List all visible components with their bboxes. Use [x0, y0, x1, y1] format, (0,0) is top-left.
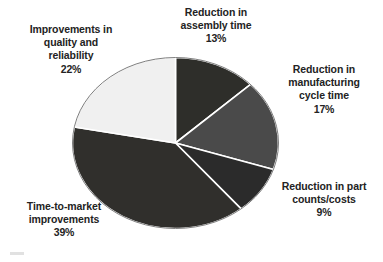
- slice-label-time-to-market-line2: improvements: [2, 213, 126, 226]
- slice-value-assembly-time: 13%: [158, 32, 274, 45]
- slice-label-manufacturing-cycle-time: Reduction in manufacturing cycle time 17…: [268, 63, 380, 116]
- slice-value-time-to-market: 39%: [2, 226, 126, 239]
- slice-label-assembly-time: Reduction in assembly time 13%: [158, 6, 274, 46]
- slice-label-quality-reliability-line3: reliability: [6, 49, 136, 62]
- slice-label-part-counts-costs-line1: Reduction in part: [267, 180, 381, 193]
- slice-label-manufacturing-cycle-time-line3: cycle time: [268, 89, 380, 102]
- slice-value-part-counts-costs: 9%: [267, 206, 381, 219]
- slice-label-quality-reliability: Improvements in quality and reliability …: [6, 23, 136, 76]
- slice-label-assembly-time-line1: Reduction in: [158, 6, 274, 19]
- slice-value-quality-reliability: 22%: [6, 63, 136, 76]
- slice-label-manufacturing-cycle-time-line2: manufacturing: [268, 76, 380, 89]
- slice-label-quality-reliability-line1: Improvements in: [6, 23, 136, 36]
- slice-label-time-to-market: Time-to-market improvements 39%: [2, 200, 126, 240]
- slice-label-part-counts-costs-line2: counts/costs: [267, 193, 381, 206]
- slice-label-time-to-market-line1: Time-to-market: [2, 200, 126, 213]
- scan-artifact-speck: [10, 252, 24, 255]
- slice-value-manufacturing-cycle-time: 17%: [268, 103, 380, 116]
- slice-label-assembly-time-line2: assembly time: [158, 19, 274, 32]
- slice-label-quality-reliability-line2: quality and: [6, 36, 136, 49]
- pie-chart-figure: Reduction in assembly time 13% Improveme…: [0, 0, 383, 262]
- slice-label-manufacturing-cycle-time-line1: Reduction in: [268, 63, 380, 76]
- slice-label-part-counts-costs: Reduction in part counts/costs 9%: [267, 180, 381, 220]
